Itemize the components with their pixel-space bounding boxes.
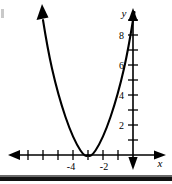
y-axis-label: y <box>121 7 127 19</box>
coordinate-plane: -4 -2 2 4 6 8 x y <box>0 0 172 172</box>
x-tick-label-neg2: -2 <box>100 161 108 172</box>
parabola-graph-figure: -4 -2 2 4 6 8 x y <box>0 0 172 184</box>
x-axis-left-arrow-icon <box>8 150 20 160</box>
y-tick-label-8: 8 <box>119 30 124 41</box>
y-axis-bottom-arrow-icon <box>128 157 137 170</box>
y-tick-label-4: 4 <box>119 90 124 101</box>
curve-left-arrow-icon <box>37 4 49 20</box>
y-tick-label-6: 6 <box>119 60 124 71</box>
footer-bar-thick <box>0 177 172 181</box>
x-tick-label-neg4: -4 <box>67 161 75 172</box>
y-tick-label-2: 2 <box>119 120 124 131</box>
x-axis-label: x <box>157 157 163 169</box>
